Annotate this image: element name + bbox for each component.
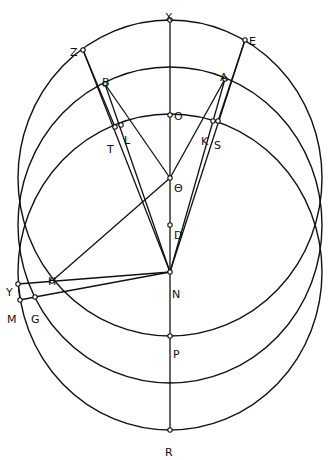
labels-group: XZEBAOTLKSΘDNHYMGPR [5,11,256,459]
point-r-icon [168,428,172,432]
label-g: G [31,313,40,326]
point-s-icon [216,119,220,123]
label-s: S [214,139,221,152]
point-k-icon [211,119,215,123]
point-p-icon [168,334,172,338]
point-l-icon [119,123,123,127]
label-d: D [174,229,182,242]
label-h: H [48,275,56,288]
label-m: M [7,313,17,326]
segment-a-n [170,79,225,272]
segment-z-t [83,50,115,127]
label-theta: Θ [174,182,183,195]
point-d-icon [168,223,172,227]
segment-z-n [83,50,170,272]
label-t: T [106,143,114,156]
label-a: A [220,71,228,84]
diagram-canvas: XZEBAOTLKSΘDNHYMGPR [0,0,329,460]
point-g-icon [33,295,37,299]
geometry-diagram: XZEBAOTLKSΘDNHYMGPR [0,0,329,460]
point-e-icon [243,38,247,42]
point-theta-icon [168,176,172,180]
segment-y-n [18,272,170,284]
point-y-icon [16,282,20,286]
label-l: L [124,134,131,147]
point-z-icon [81,48,85,52]
label-b: B [102,76,110,89]
label-r: R [165,446,173,459]
segment-h-theta [52,178,170,281]
segment-b-n [105,84,170,272]
lines-group [18,20,245,430]
label-x: X [165,11,173,24]
label-n: N [172,288,180,301]
label-k: K [201,135,209,148]
point-m-icon [18,298,22,302]
label-y: Y [5,286,13,299]
label-z: Z [70,46,78,59]
label-o: O [174,110,183,123]
point-n-icon [168,270,172,274]
point-o-icon [168,113,172,117]
label-p: P [173,348,180,361]
label-e: E [249,35,256,48]
point-t-icon [113,125,117,129]
